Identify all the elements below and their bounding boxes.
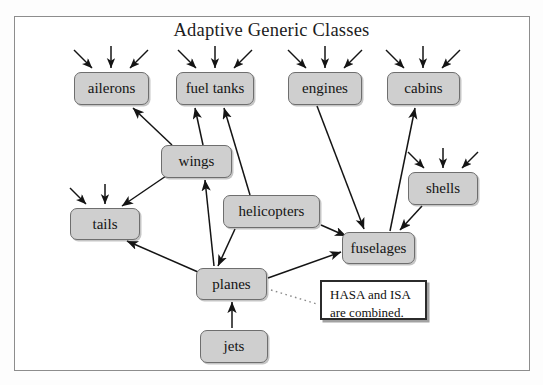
node-fuel-tanks[interactable]: fuel tanks bbox=[176, 72, 254, 105]
node-fuselages[interactable]: fuselages bbox=[342, 232, 415, 264]
node-label: cabins bbox=[404, 80, 442, 97]
node-label: ailerons bbox=[88, 80, 135, 97]
hasa-isa-note: HASA and ISA are combined. bbox=[320, 280, 427, 320]
node-label: helicopters bbox=[239, 203, 305, 220]
node-wings[interactable]: wings bbox=[161, 145, 232, 178]
node-label: fuselages bbox=[351, 240, 407, 257]
node-cabins[interactable]: cabins bbox=[387, 72, 460, 105]
node-helicopters[interactable]: helicopters bbox=[223, 195, 320, 228]
note-line-2: are combined. bbox=[330, 304, 418, 322]
node-engines[interactable]: engines bbox=[288, 72, 362, 105]
node-planes[interactable]: planes bbox=[196, 268, 267, 300]
node-label: wings bbox=[179, 153, 215, 170]
node-label: fuel tanks bbox=[186, 80, 245, 97]
note-line-1: HASA and ISA bbox=[330, 286, 418, 304]
node-label: engines bbox=[302, 80, 348, 97]
node-label: planes bbox=[212, 276, 250, 293]
node-label: shells bbox=[426, 180, 460, 197]
node-shells[interactable]: shells bbox=[408, 172, 478, 205]
node-tails[interactable]: tails bbox=[70, 208, 140, 240]
page-title: Adaptive Generic Classes bbox=[0, 20, 543, 41]
diagram-canvas: Adaptive Generic Classes bbox=[0, 0, 543, 385]
node-label: jets bbox=[224, 338, 245, 355]
node-ailerons[interactable]: ailerons bbox=[74, 72, 149, 105]
node-jets[interactable]: jets bbox=[200, 330, 268, 363]
node-label: tails bbox=[93, 216, 118, 233]
